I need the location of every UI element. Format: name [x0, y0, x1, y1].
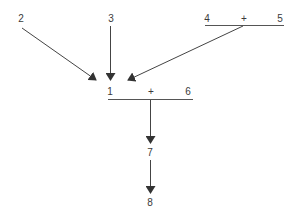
node-2-label: 2: [18, 13, 24, 24]
node-4-5-operator: +: [241, 13, 247, 24]
arrow-45-to-1: [128, 26, 243, 80]
dependency-diagram: 2 3 4 + 5 1 + 6 7 8: [0, 0, 299, 221]
node-3-label: 3: [108, 13, 114, 24]
node-8-label: 8: [147, 197, 153, 208]
node-6-label: 6: [185, 86, 191, 97]
node-1-6-operator: +: [148, 86, 154, 97]
node-4-label: 4: [204, 13, 210, 24]
arrow-2-to-1: [22, 28, 96, 80]
node-5-label: 5: [277, 13, 283, 24]
node-1-label: 1: [107, 86, 113, 97]
node-7-label: 7: [147, 147, 153, 158]
